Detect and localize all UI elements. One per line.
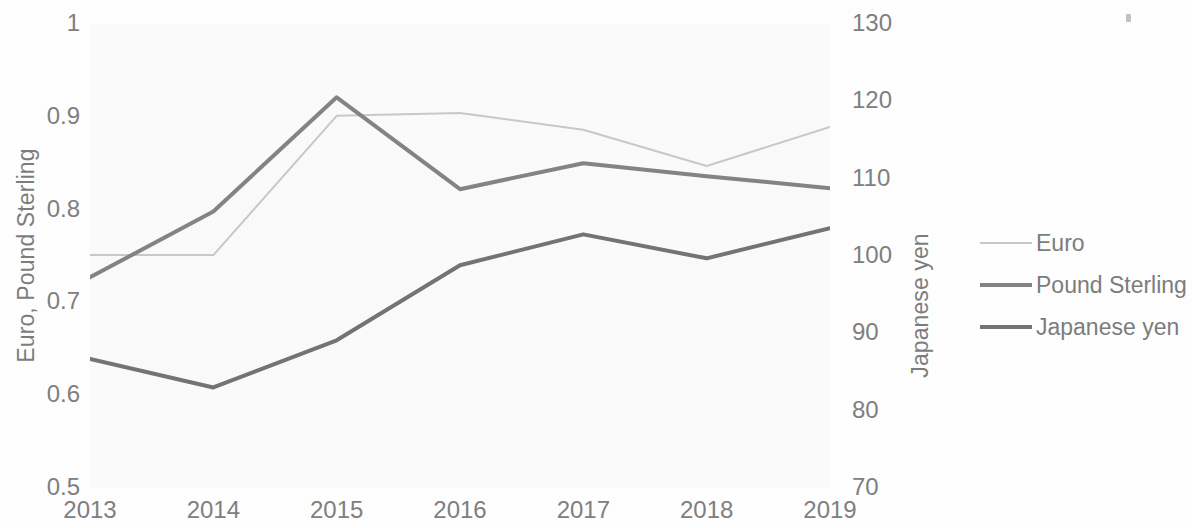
series-line-japanese-yen xyxy=(90,228,830,387)
y-axis-right-tick: 100 xyxy=(852,241,922,269)
x-axis-tick: 2019 xyxy=(785,496,875,524)
y-axis-left-title: Euro, Pound Sterling xyxy=(13,106,40,406)
y-axis-left-tick: 0.9 xyxy=(10,102,80,130)
y-axis-right-tick: 120 xyxy=(852,86,922,114)
y-axis-right-tick: 90 xyxy=(852,318,922,346)
series-lines xyxy=(90,24,830,488)
currency-exchange-rate-line-chart: Euro, Pound Sterling Japanese yen 0.50.6… xyxy=(0,0,1192,528)
y-axis-right-tick: 110 xyxy=(852,164,922,192)
series-line-euro xyxy=(90,113,830,255)
y-axis-left-tick: 0.7 xyxy=(10,287,80,315)
y-axis-left-tick: 1 xyxy=(10,9,80,37)
x-axis-tick: 2018 xyxy=(662,496,752,524)
legend: EuroPound SterlingJapanese yen xyxy=(980,222,1192,348)
legend-item[interactable]: Japanese yen xyxy=(980,306,1192,348)
legend-line-swatch xyxy=(980,283,1032,287)
legend-item[interactable]: Euro xyxy=(980,222,1192,264)
x-axis-tick: 2017 xyxy=(538,496,628,524)
scan-artifact-speck xyxy=(1126,14,1131,22)
x-axis-tick: 2016 xyxy=(415,496,505,524)
legend-item-label: Pound Sterling xyxy=(1036,274,1187,297)
legend-item[interactable]: Pound Sterling xyxy=(980,264,1192,306)
y-axis-left-tick: 0.6 xyxy=(10,380,80,408)
legend-line-swatch xyxy=(980,325,1032,329)
legend-line-swatch xyxy=(980,242,1032,244)
x-axis-tick: 2013 xyxy=(45,496,135,524)
y-axis-right-tick: 130 xyxy=(852,9,922,37)
legend-item-label: Euro xyxy=(1036,232,1085,255)
x-axis-tick: 2014 xyxy=(168,496,258,524)
y-axis-left-tick: 0.8 xyxy=(10,195,80,223)
x-axis-tick: 2015 xyxy=(292,496,382,524)
y-axis-right-tick: 80 xyxy=(852,396,922,424)
legend-item-label: Japanese yen xyxy=(1036,316,1179,339)
plot-area xyxy=(90,24,830,488)
series-line-pound-sterling xyxy=(90,97,830,277)
